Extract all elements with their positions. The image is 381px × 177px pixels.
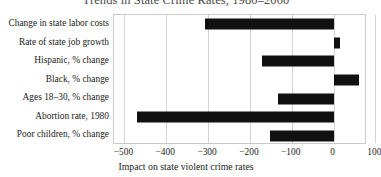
x-axis-tick-labels: −500−400−300−200−1000100: [0, 146, 372, 160]
bar-row: [114, 126, 365, 145]
x-axis-tick-label: −500: [114, 146, 133, 159]
x-axis-tick-label: −100: [281, 146, 300, 159]
bar: [262, 56, 334, 67]
x-axis-tick-label: 0: [330, 146, 335, 159]
bar: [270, 130, 334, 141]
y-axis-label: Hispanic, % change: [0, 51, 109, 70]
bar: [334, 37, 340, 48]
bar-row: [114, 108, 365, 127]
y-axis-label: Black, % change: [0, 70, 109, 89]
bar-row: [114, 52, 365, 71]
y-axis-label: Abortion rate, 1980: [0, 107, 109, 126]
bar: [334, 74, 360, 85]
bar: [278, 93, 334, 104]
chart-title: Trends in State Crime Rates, 1980–2000: [0, 0, 372, 7]
bar-row: [114, 34, 365, 53]
y-axis-category-labels: Change in state labor costsRate of state…: [0, 14, 109, 144]
x-axis-tick-label: −400: [156, 146, 175, 159]
bar: [137, 112, 334, 123]
bar: [205, 19, 333, 30]
bar-row: [114, 71, 365, 90]
y-axis-label: Change in state labor costs: [0, 14, 109, 33]
x-axis-title: Impact on state violent crime rates: [0, 161, 372, 172]
y-axis-label: Rate of state job growth: [0, 33, 109, 52]
x-axis-tick-label: −300: [197, 146, 216, 159]
y-axis-label: Poor children, % change: [0, 125, 109, 144]
x-axis-tick-label: −200: [239, 146, 258, 159]
bar-row: [114, 89, 365, 108]
x-axis-tick-label: 100: [367, 146, 381, 159]
bar-row: [114, 15, 365, 34]
plot-area: [113, 14, 366, 144]
gridline-6: [375, 15, 376, 143]
y-axis-label: Ages 18–30, % change: [0, 88, 109, 107]
